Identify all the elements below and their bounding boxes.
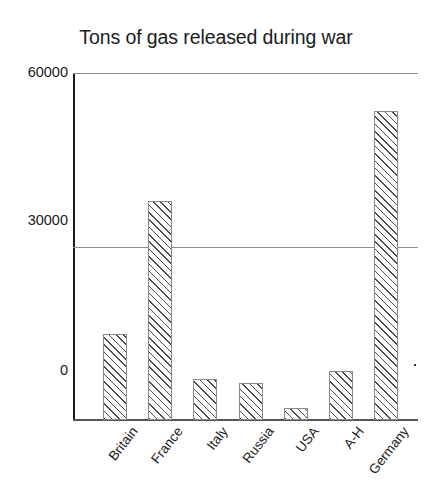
y-axis-tick-0: 0 — [2, 362, 68, 378]
gridline-60000 — [73, 73, 418, 74]
bar-france — [148, 201, 172, 420]
x-axis-label-italy: Italy — [182, 424, 231, 481]
x-axis-label-a-h: A-H — [318, 424, 367, 481]
bar-usa — [284, 408, 308, 420]
gridline-30000 — [73, 247, 418, 248]
bar-italy — [193, 379, 217, 420]
scan-speck — [414, 364, 416, 366]
x-axis-label-russia: Russia — [228, 424, 277, 481]
bar-chart: Tons of gas released during war 60000 30… — [0, 0, 432, 487]
bar-britain — [103, 334, 127, 420]
y-axis-tick-30000: 30000 — [2, 212, 68, 228]
x-axis-label-france: France — [137, 424, 186, 481]
y-axis-tick-60000: 60000 — [2, 64, 68, 80]
x-axis-label-britain: Britain — [92, 424, 141, 481]
x-axis-category-labels: BritainFranceItalyRussiaUSAA-HGermany — [73, 424, 418, 487]
x-axis-label-germany: Germany — [363, 424, 412, 481]
bar-a-h — [329, 371, 353, 420]
plot-area — [73, 73, 418, 420]
y-axis-tick-labels: 60000 30000 0 — [0, 0, 68, 487]
x-axis-label-usa: USA — [273, 424, 322, 481]
bar-russia — [239, 383, 263, 420]
bar-germany — [374, 111, 398, 420]
